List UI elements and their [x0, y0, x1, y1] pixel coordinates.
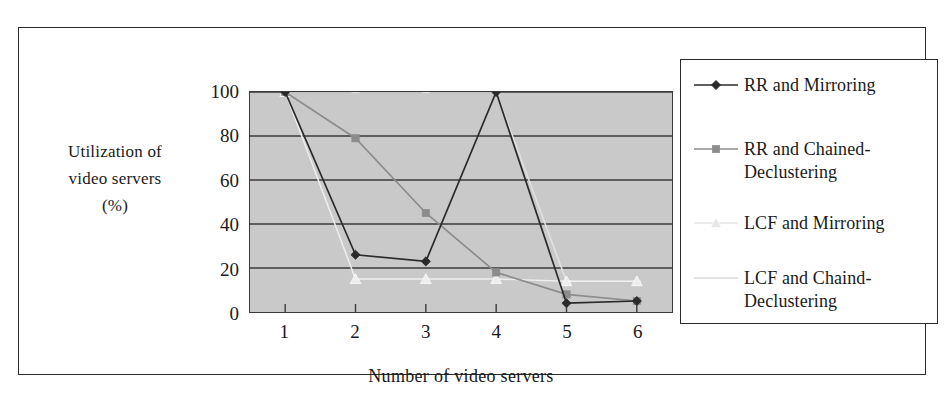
- x-axis-title: Number of video servers: [249, 366, 673, 387]
- y-axis-tick-labels: 100806040200: [187, 80, 239, 324]
- legend-label: LCF and Chaind- Declustering: [742, 267, 872, 313]
- plot-svg: [250, 92, 672, 312]
- x-axis-tick-label: 6: [618, 321, 658, 343]
- x-axis-tick-label: 1: [264, 321, 304, 343]
- y-axis-title-line-1: Utilization of: [41, 138, 189, 165]
- x-axis-tick-label: 5: [547, 321, 587, 343]
- y-axis-title-line-3: (%): [41, 192, 189, 219]
- figure-frame: Utilization of video servers (%) 1008060…: [18, 27, 926, 375]
- legend-label: LCF and Mirroring: [742, 212, 885, 235]
- y-axis-tick-label: 80: [187, 126, 239, 145]
- legend-entry[interactable]: LCF and Mirroring: [681, 212, 939, 235]
- data-point-marker: [352, 92, 360, 93]
- x-axis-tick-label: 4: [476, 321, 516, 343]
- series-line: [285, 92, 637, 281]
- data-point-marker: [421, 257, 430, 266]
- series-line: [281, 92, 641, 282]
- series-line: [285, 92, 637, 303]
- legend-marker-triangle-icon: [690, 213, 742, 233]
- y-axis-tick-label: 100: [187, 82, 239, 101]
- x-axis-tick-labels: 123456: [249, 321, 673, 347]
- series-triangle: [280, 92, 642, 286]
- legend-entry[interactable]: RR and Mirroring: [681, 74, 939, 97]
- data-point-marker: [492, 269, 499, 276]
- y-axis-tick-label: 0: [187, 304, 239, 323]
- y-axis-tick-label: 60: [187, 171, 239, 190]
- data-point-marker: [351, 250, 360, 259]
- y-axis-title: Utilization of video servers (%): [41, 138, 189, 219]
- data-point-marker: [492, 92, 501, 97]
- series-line: [285, 92, 637, 281]
- y-axis-tick-label: 40: [187, 215, 239, 234]
- y-axis-title-line-2: video servers: [41, 165, 189, 192]
- plot-area: [249, 91, 673, 313]
- data-point-marker: [352, 135, 359, 142]
- legend-entry[interactable]: LCF and Chaind- Declustering: [681, 267, 939, 313]
- y-axis-tick-label: 20: [187, 260, 239, 279]
- legend-marker-line-icon: [690, 268, 742, 288]
- legend-entry[interactable]: RR and Chained- Declustering: [681, 138, 939, 184]
- legend-marker-square-icon: [690, 139, 742, 159]
- chart-legend: RR and MirroringRR and Chained- Decluste…: [680, 59, 938, 324]
- x-axis-ticks: [285, 304, 637, 312]
- series-square: [281, 92, 640, 305]
- legend-label: RR and Chained- Declustering: [742, 138, 870, 184]
- data-point-marker: [711, 80, 720, 89]
- x-axis-tick-label: 2: [335, 321, 375, 343]
- data-point-marker: [422, 92, 430, 93]
- series-line: [285, 92, 637, 301]
- data-point-marker: [712, 145, 719, 152]
- data-point-marker: [422, 209, 429, 216]
- x-axis-tick-label: 3: [406, 321, 446, 343]
- data-point-marker: [562, 299, 571, 308]
- legend-label: RR and Mirroring: [742, 74, 876, 97]
- legend-marker-diamond-icon: [690, 75, 742, 95]
